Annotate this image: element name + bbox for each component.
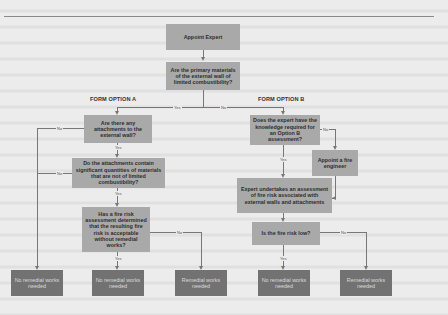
no-label: No	[322, 127, 329, 132]
connector	[117, 107, 283, 108]
yes-label: Yes	[114, 191, 123, 196]
no-label: No	[56, 171, 63, 176]
no-label: No	[176, 230, 183, 235]
yes-label: Yes	[279, 157, 288, 162]
no-label: No	[340, 230, 347, 235]
arrow-down-icon	[201, 57, 205, 61]
primary-materials-question-box: Are the primary materials of the externa…	[166, 62, 240, 90]
option-b-fire-risk-low-question-box: Is the fire risk low?	[252, 222, 320, 245]
yes-label: Yes	[173, 105, 182, 110]
connector	[335, 129, 336, 147]
form-option-a-heading: FORM OPTION A	[90, 96, 136, 102]
outcome-remedial-works-box: Remedial works needed	[175, 270, 227, 296]
connector	[366, 232, 367, 266]
arrow-left-icon	[332, 196, 336, 200]
option-b-expert-knowledge-question-box: Does the expert have the knowledge requi…	[250, 115, 320, 145]
yes-label: Yes	[279, 256, 288, 261]
option-a-combustibility-question-box: Do the attachments contain significant q…	[72, 158, 165, 188]
connector	[203, 90, 204, 107]
no-label: No	[56, 126, 63, 131]
form-option-b-heading: FORM OPTION B	[258, 96, 304, 102]
no-label: No	[220, 105, 227, 110]
appoint-expert-box: Appoint Expert	[166, 24, 240, 50]
outcome-no-remedial-works-box: No remedial works needed	[258, 270, 310, 296]
connector	[37, 128, 38, 266]
yes-label: Yes	[114, 256, 123, 261]
outcome-no-remedial-works-box: No remedial works needed	[11, 270, 63, 296]
connector	[201, 232, 202, 266]
connector	[37, 173, 72, 174]
expert-assessment-box: Expert undertakes an assessment of fire …	[237, 178, 332, 213]
top-rule-divider	[4, 16, 434, 17]
outcome-no-remedial-works-box: No remedial works needed	[92, 270, 144, 296]
yes-label: Yes	[114, 145, 123, 150]
appoint-fire-engineer-box: Appoint a fire engineer	[312, 150, 358, 176]
option-a-fire-risk-assessment-question-box: Has a fire risk assessment determined th…	[82, 207, 150, 252]
option-a-attachments-question-box: Are there any attachments to the externa…	[84, 115, 152, 143]
outcome-remedial-works-box: Remedial works needed	[340, 270, 392, 296]
